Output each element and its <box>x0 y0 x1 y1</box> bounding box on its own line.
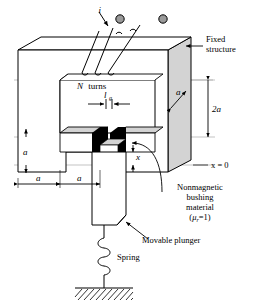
movable-plunger-label: Movable plunger <box>142 235 200 245</box>
left-a-label: a <box>23 147 28 157</box>
x-label: x <box>135 152 140 162</box>
bushing-label-3: material <box>186 202 214 212</box>
bottom-a-label-2: a <box>77 173 82 183</box>
height-2a-label: 2a <box>212 104 222 114</box>
spring-label: Spring <box>117 252 140 262</box>
origin-reference: x = 0 <box>193 160 229 170</box>
gap-subscript: g <box>109 95 112 101</box>
bushing-label-2: bushing <box>187 192 215 202</box>
spring-assembly <box>98 225 110 288</box>
coil-loop-top-1 <box>116 32 122 34</box>
figure-canvas: i l g 2a <box>0 0 257 307</box>
ground-support <box>75 288 133 300</box>
structure-right-face <box>168 37 191 172</box>
coil-terminals <box>116 15 167 23</box>
dim-2a: 2a <box>208 80 222 137</box>
fixed-structure-label-2: structure <box>206 44 236 54</box>
dim-bottom-a: a a <box>18 170 100 188</box>
ground-hatching <box>75 289 133 300</box>
plunger-body <box>92 152 126 225</box>
callout-fixed-structure: Fixed structure <box>186 34 236 54</box>
fixed-structure-label-1: Fixed <box>206 34 226 44</box>
plunger-actuator-diagram: i l g 2a <box>0 0 257 307</box>
terminal-left <box>116 15 124 23</box>
bottom-a-label-1: a <box>36 173 41 183</box>
n-turns-label: N turns <box>76 81 107 91</box>
n-turns-word: turns <box>88 81 106 91</box>
window-opening <box>60 80 155 133</box>
bushing-permeability: (μr=1) <box>189 212 211 223</box>
coil-loop-top-2 <box>130 29 136 31</box>
n-turns-symbol: N <box>76 81 84 91</box>
bushing-label-1: Nonmagnetic <box>177 182 223 192</box>
movable-plunger <box>92 152 126 225</box>
callout-movable-plunger: Movable plunger <box>126 222 200 245</box>
spring-coils <box>98 238 110 275</box>
depth-a-label: a <box>176 87 181 97</box>
origin-label: x = 0 <box>211 160 229 170</box>
current-label: i <box>98 5 101 15</box>
terminal-right <box>159 15 167 23</box>
mu-rest: =1) <box>199 212 211 222</box>
